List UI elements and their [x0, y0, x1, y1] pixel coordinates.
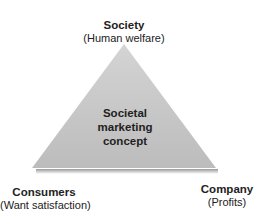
- vertex-company: Company (Profits): [200, 183, 254, 209]
- center-label: Societal marketing concept: [84, 106, 166, 148]
- triangle-shadow: [36, 169, 218, 174]
- vertex-title: Consumers: [0, 186, 88, 199]
- vertex-title: Company: [200, 183, 254, 196]
- vertex-subtitle: (Profits): [208, 196, 247, 208]
- center-line: Societal: [84, 106, 166, 120]
- vertex-subtitle: (Want satisfaction): [0, 199, 91, 211]
- vertex-consumers: Consumers (Want satisfaction): [0, 186, 88, 212]
- vertex-subtitle: (Human welfare): [83, 32, 164, 44]
- vertex-title: Society: [74, 19, 174, 32]
- vertex-society: Society (Human welfare): [74, 19, 174, 45]
- center-line: marketing: [84, 120, 166, 134]
- center-line: concept: [84, 134, 166, 148]
